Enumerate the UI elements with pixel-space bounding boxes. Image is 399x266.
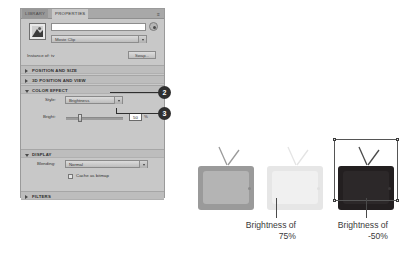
style-dropdown[interactable]: Brightness [65,96,123,104]
antenna-icon [198,144,254,166]
callout-2-leader-line [110,92,160,93]
instance-name-indicator-icon[interactable] [149,22,158,31]
brightness-slider-knob[interactable] [78,114,82,122]
instance-name-input[interactable] [51,23,146,31]
swap-button[interactable]: Swap... [128,51,156,59]
tv-knob [317,187,320,190]
style-value: Brightness [69,98,89,103]
section-title: FILTERS [32,192,51,201]
selection-handle[interactable] [333,138,336,141]
selection-bounding-box[interactable] [334,139,398,201]
brightness-value-field[interactable]: 50 [129,113,142,121]
movie-clip-thumbnail-icon [29,23,46,40]
tv-body [198,166,254,210]
callout-marker-2: 2 [158,86,171,99]
cache-as-bitmap-row: Cache as bitmap [21,172,164,181]
chevron-right-icon [25,195,28,199]
callout-marker-3: 3 [158,107,171,120]
caption-brightness-minus-50: Brightness of -50% [300,220,388,241]
symbol-type-value: Movie Clip [55,37,75,42]
caption-brightness-75: Brightness of 75% [208,220,296,241]
chevron-down-icon[interactable] [138,36,146,43]
caption-line-2: 75% [208,231,296,242]
tv-screen [203,171,249,204]
color-effect-body: Style: Brightness Bright: 50 % [21,94,164,149]
instance-of-label: Instance of: tv [27,52,54,60]
illustration-area: Brightness of 75% Brightness of -50% [190,136,396,266]
brightness-unit: % [144,113,148,121]
blending-dropdown[interactable]: Normal [65,160,148,168]
chevron-down-icon[interactable] [114,97,122,104]
brightness-label: Bright: [43,113,56,121]
style-row: Style: Brightness [21,94,164,106]
blending-row: Blending: Normal [21,158,164,170]
blending-value: Normal [69,162,83,167]
selection-handle[interactable] [396,199,399,202]
tab-properties[interactable]: PROPERTIES [52,9,88,19]
tv-screen [272,171,318,204]
caption-leader-75 [276,198,277,218]
caption-line-1: Brightness of [208,220,296,231]
blending-label: Blending: [37,160,55,168]
properties-panel: LIBRARY PROPERTIES ≡ Movie Clip Instance… [20,8,165,198]
selection-handle[interactable] [396,138,399,141]
section-display[interactable]: DISPLAY [21,149,164,158]
cache-as-bitmap-label: Cache as bitmap [76,172,109,180]
antenna-icon [267,144,323,166]
section-title: POSITION AND SIZE [32,66,77,75]
panel-tab-bar: LIBRARY PROPERTIES ≡ [21,9,164,19]
cache-as-bitmap-checkbox[interactable] [68,174,73,179]
section-filters[interactable]: FILTERS [21,191,164,200]
caption-leader-minus-50 [366,198,367,218]
chevron-down-icon[interactable] [139,161,147,168]
selection-handle[interactable] [333,199,336,202]
chevron-right-icon [25,69,28,73]
symbol-type-dropdown[interactable]: Movie Clip [51,35,147,43]
caption-line-2: -50% [300,231,388,242]
panel-menu-icon[interactable]: ≡ [155,11,162,17]
display-body: Blending: Normal Cache as bitmap [21,158,164,191]
chevron-down-icon [25,154,29,157]
style-label: Style: [45,96,56,104]
tv-original [198,144,254,210]
brightness-slider-track[interactable] [66,117,123,120]
chevron-down-icon [25,90,29,93]
instance-of-row: Instance of: tv Swap... [21,51,164,62]
tv-knob [248,187,251,190]
symbol-header: Movie Clip [21,20,164,48]
section-title: 3D POSITION AND VIEW [32,76,86,85]
tab-library[interactable]: LIBRARY [22,9,48,19]
section-position-and-size[interactable]: POSITION AND SIZE [21,65,164,74]
caption-line-1: Brightness of [300,220,388,231]
section-3d-position-and-view[interactable]: 3D POSITION AND VIEW [21,75,164,84]
chevron-right-icon [25,79,28,83]
callout-3-leader-line [116,113,160,114]
symbol-glyph-icon [32,26,43,37]
